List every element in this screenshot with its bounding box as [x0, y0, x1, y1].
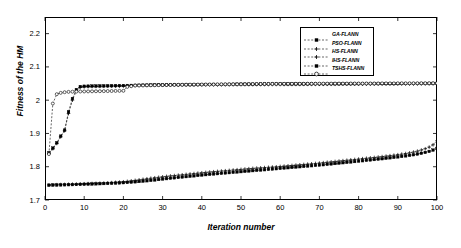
x-tick-label: 10: [72, 203, 96, 212]
marker-circle: [251, 83, 254, 86]
marker-circle: [353, 82, 356, 85]
marker-circle: [373, 82, 376, 85]
marker-circle: [349, 82, 352, 85]
marker-circle: [185, 83, 188, 86]
marker-circle: [79, 90, 82, 93]
marker-circle: [169, 83, 172, 86]
marker-square: [95, 85, 98, 88]
marker-circle: [192, 83, 195, 86]
x-tick-label: 50: [229, 203, 253, 212]
series-ga-flann: [48, 147, 439, 186]
marker-circle: [259, 83, 262, 86]
marker-circle: [345, 82, 348, 85]
marker-square: [59, 135, 62, 138]
series-hs-flann: [47, 82, 439, 155]
marker-square: [432, 149, 435, 152]
marker-circle: [149, 84, 152, 87]
marker-circle: [408, 82, 411, 85]
marker-circle: [181, 83, 184, 86]
marker-circle: [416, 82, 419, 85]
x-tick-label: 60: [268, 203, 292, 212]
marker-circle: [87, 90, 90, 93]
x-tick-label: 70: [307, 203, 331, 212]
marker-circle: [208, 83, 211, 86]
marker-circle: [59, 91, 62, 94]
marker-square: [83, 85, 86, 88]
marker-circle: [98, 90, 101, 93]
marker-circle: [314, 82, 317, 85]
x-tick-label: 80: [347, 203, 371, 212]
marker-circle: [255, 83, 258, 86]
marker-circle: [55, 93, 58, 96]
legend-item[interactable]: TSHS-FLANN: [303, 64, 371, 73]
x-tick-label: 90: [386, 203, 410, 212]
marker-circle: [290, 82, 293, 85]
legend-marker-circle: [315, 72, 319, 76]
marker-circle: [67, 90, 70, 93]
marker-circle: [318, 82, 321, 85]
marker-circle: [161, 84, 164, 87]
marker-circle: [114, 89, 117, 92]
marker-circle: [369, 82, 372, 85]
marker-circle: [330, 82, 333, 85]
legend-item[interactable]: HS-FLANN: [303, 47, 371, 56]
marker-circle: [220, 83, 223, 86]
marker-circle: [157, 84, 160, 87]
marker-circle: [334, 82, 337, 85]
legend-item[interactable]: IHS-FLANN: [303, 56, 371, 65]
legend-item[interactable]: GA-FLANN: [303, 30, 371, 39]
legend-marker-icon: [303, 30, 330, 38]
legend-marker-icon: [303, 39, 330, 47]
legend-label: PSO-FLANN: [330, 40, 361, 46]
x-axis-label: Iteration number: [45, 222, 437, 232]
legend-item[interactable]: PSO-FLANN: [303, 39, 371, 48]
marker-circle: [381, 82, 384, 85]
marker-square: [424, 151, 427, 154]
marker-square: [67, 111, 70, 114]
marker-circle: [189, 83, 192, 86]
marker-circle: [145, 84, 148, 87]
x-tick-label: 30: [151, 203, 175, 212]
marker-circle: [75, 90, 78, 93]
marker-circle: [142, 84, 145, 87]
legend-label: HS-FLANN: [330, 48, 358, 54]
marker-circle: [212, 83, 215, 86]
marker-circle: [204, 83, 207, 86]
marker-square: [118, 84, 121, 87]
series-line: [49, 83, 437, 154]
series-line: [49, 141, 437, 185]
marker-circle: [263, 82, 266, 85]
marker-circle: [436, 82, 439, 85]
marker-circle: [271, 82, 274, 85]
marker-circle: [51, 102, 54, 105]
marker-circle: [302, 82, 305, 85]
marker-square: [416, 153, 419, 156]
x-tick-label: 100: [425, 203, 449, 212]
marker-square: [110, 84, 113, 87]
marker-circle: [412, 82, 415, 85]
marker-circle: [396, 82, 399, 85]
series-line: [49, 84, 437, 154]
marker-square: [114, 84, 117, 87]
marker-circle: [341, 82, 344, 85]
series-pso-flann: [47, 139, 439, 187]
series-tshs-flann: [47, 82, 438, 156]
marker-circle: [138, 84, 141, 87]
marker-circle: [236, 83, 239, 86]
marker-circle: [243, 83, 246, 86]
marker-square: [91, 85, 94, 88]
marker-circle: [392, 82, 395, 85]
marker-circle: [287, 82, 290, 85]
marker-square: [103, 85, 106, 88]
marker-circle: [240, 83, 243, 86]
legend-label: IHS-FLANN: [330, 57, 359, 63]
marker-circle: [224, 83, 227, 86]
marker-circle: [283, 82, 286, 85]
marker-circle: [153, 84, 156, 87]
marker-circle: [361, 82, 364, 85]
legend-label: TSHS-FLANN: [330, 65, 364, 71]
marker-square: [436, 147, 439, 150]
marker-plus: [435, 139, 439, 143]
marker-circle: [200, 83, 203, 86]
marker-circle: [118, 89, 121, 92]
